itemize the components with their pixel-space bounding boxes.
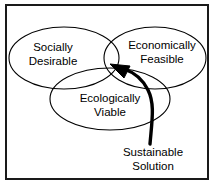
annotation-label-sustainable-solution: Sustainable Solution (108, 146, 198, 173)
venn-label-line-1: Economically (120, 39, 204, 53)
annotation-label-line-1: Sustainable (108, 146, 198, 160)
diagram-canvas: Socially Desirable Economically Feasible… (0, 0, 224, 185)
venn-label-line-1: Ecologically (66, 92, 154, 106)
venn-label-economically-feasible: Economically Feasible (120, 39, 204, 66)
venn-label-line-2: Feasible (120, 53, 204, 67)
venn-label-line-2: Desirable (14, 55, 92, 69)
annotation-label-line-2: Solution (108, 160, 198, 174)
venn-label-line-1: Socially (14, 41, 92, 55)
venn-label-line-2: Viable (66, 106, 154, 120)
venn-label-socially-desirable: Socially Desirable (14, 41, 92, 68)
venn-label-ecologically-viable: Ecologically Viable (66, 92, 154, 119)
